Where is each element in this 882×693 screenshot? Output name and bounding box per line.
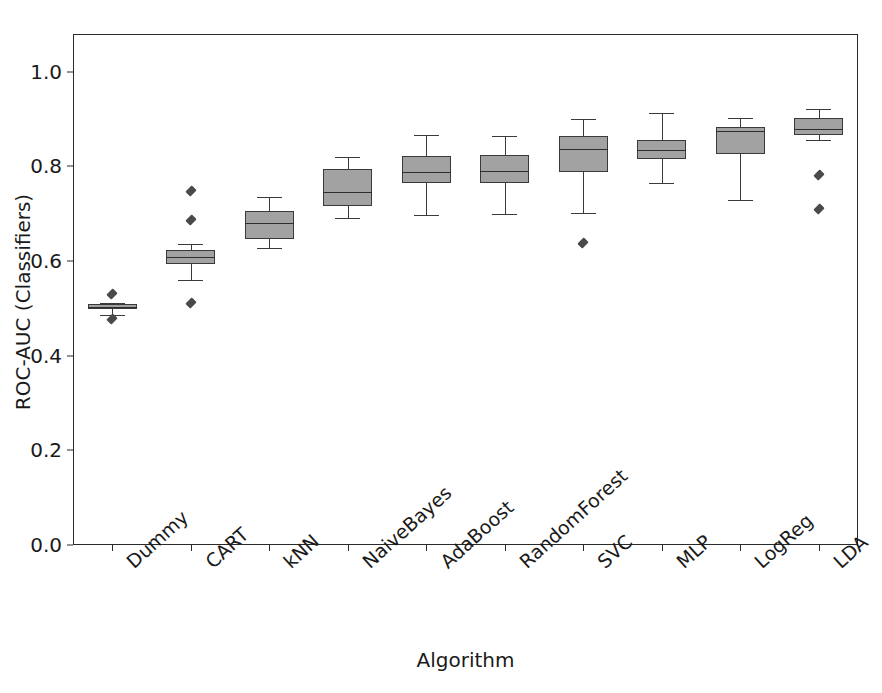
y-axis-label: ROC-AUC (Classifiers) [11, 67, 35, 537]
x-axis-tick-mark [112, 545, 113, 551]
median-line [794, 129, 843, 130]
x-axis-tick-mark [740, 545, 741, 551]
x-axis-tick-mark [191, 545, 192, 551]
cap-lower [806, 140, 831, 141]
whisker-upper [819, 109, 820, 118]
box-iqr [794, 118, 843, 136]
cap-upper [806, 109, 831, 110]
x-axis-tick-mark [426, 545, 427, 551]
outlier-marker [813, 170, 824, 181]
x-axis-tick-mark [348, 545, 349, 551]
plot-area [73, 34, 858, 545]
x-axis-tick-mark [583, 545, 584, 551]
x-axis-label: Algorithm [73, 648, 858, 672]
x-axis-tick-mark [505, 545, 506, 551]
box-plot-figure: 0.00.20.40.60.81.0 ROC-AUC (Classifiers)… [0, 0, 882, 693]
x-axis-tick-mark [269, 545, 270, 551]
x-axis-tick-mark [819, 545, 820, 551]
x-axis-tick-mark [662, 545, 663, 551]
boxplot-lda [73, 34, 858, 545]
outlier-marker [813, 203, 824, 214]
